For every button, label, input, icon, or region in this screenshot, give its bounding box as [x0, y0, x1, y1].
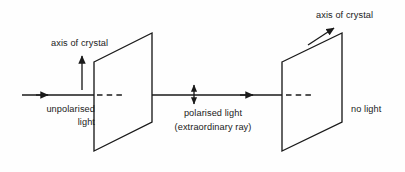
crystal-1-axis-label: axis of crystal: [51, 37, 108, 51]
unpolarised-light-label-line1: unpolarised: [0, 103, 95, 117]
crystal-2-body: [282, 33, 342, 151]
unpolarised-light-label-line2: light: [0, 116, 95, 130]
crystal-1-body: [94, 33, 152, 151]
diagram-canvas: axis of crystal unpolarised light polari…: [0, 0, 405, 172]
polarised-light-label-line2: (extraordinary ray): [153, 121, 273, 135]
polarised-light-label-line1: polarised light: [153, 107, 273, 121]
crystal-2-axis-label: axis of crystal: [316, 9, 373, 23]
no-light-label: no light: [351, 103, 381, 117]
optics-diagram-svg: [0, 0, 405, 172]
